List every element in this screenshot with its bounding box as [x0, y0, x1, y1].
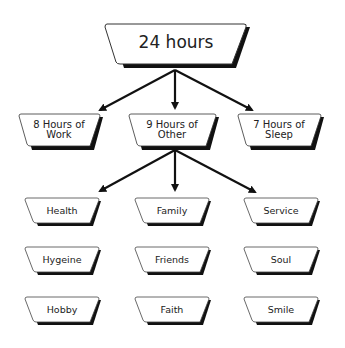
root-node: 24 hours: [104, 22, 254, 70]
arrow-other-to-service: [175, 150, 255, 192]
node-other-label: 9 Hours of Other: [143, 120, 201, 141]
node-faith: Faith: [134, 296, 212, 326]
node-sleep-label: 7 Hours of Sleep: [251, 120, 307, 141]
node-soul: Soul: [243, 246, 321, 276]
node-service: Service: [243, 197, 321, 227]
node-friends: Friends: [134, 246, 212, 276]
node-work-label: 8 Hours of Work: [31, 120, 87, 141]
node-family-label: Family: [157, 206, 188, 216]
node-hygeine: Hygeine: [24, 246, 102, 276]
node-smile: Smile: [243, 296, 321, 326]
arrow-other-to-health: [100, 150, 175, 191]
node-soul-label: Soul: [271, 255, 292, 265]
root-label: 24 hours: [139, 34, 214, 52]
node-other: 9 Hours of Other: [128, 113, 220, 151]
node-service-label: Service: [263, 206, 298, 216]
node-health-label: Health: [46, 206, 77, 216]
arrow-root-to-sleep: [175, 70, 252, 110]
node-work: 8 Hours of Work: [18, 113, 104, 151]
node-health: Health: [24, 197, 102, 227]
node-faith-label: Faith: [161, 305, 184, 315]
node-hobby-label: Hobby: [47, 305, 78, 315]
node-sleep: 7 Hours of Sleep: [237, 113, 325, 151]
node-hobby: Hobby: [24, 296, 102, 326]
node-family: Family: [134, 197, 212, 227]
node-hygeine-label: Hygeine: [42, 255, 81, 265]
node-smile-label: Smile: [268, 305, 294, 315]
node-friends-label: Friends: [155, 255, 189, 265]
arrow-root-to-work: [100, 70, 175, 110]
